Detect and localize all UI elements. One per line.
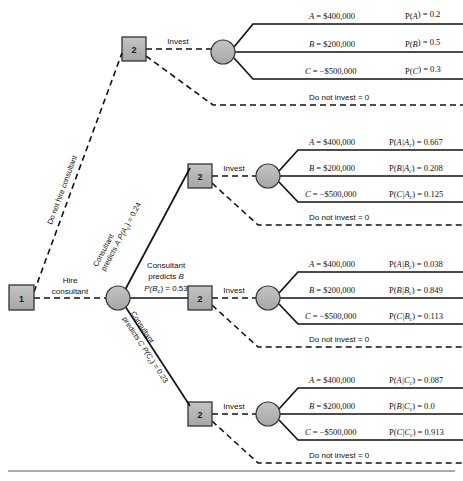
chance-node-predicts-a[interactable] xyxy=(256,164,280,188)
decision-node-root-label: 1 xyxy=(19,294,24,304)
outcome-payoff-c-2: C = −$500,000 xyxy=(305,189,356,199)
label-predicts-b-line3: P(Bc) = 0.53 xyxy=(144,284,188,294)
outcome-prob-b-2: P(B|Ac) = 0.208 xyxy=(389,163,443,174)
section-predicts-b: 2 Invest A = $400,000 P(A|Bc) = 0.038 B … xyxy=(188,259,463,347)
outcome-payoff-c-4: C = −$500,000 xyxy=(305,427,356,437)
outcome-line-a-4 xyxy=(279,388,463,409)
outcome-prob-b-4: P(B|Cc) = 0.0 xyxy=(389,401,435,412)
section-no-consultant: 2 Invest A = $400,000 P(A) = 0.2 B = $20… xyxy=(122,9,463,105)
outcome-payoff-b-3: B = $200,000 xyxy=(309,285,355,295)
outcome-prob-c-2: P(C|Ac) = 0.125 xyxy=(389,189,443,200)
invest-label-4: Invest xyxy=(223,402,245,411)
branch-labels: Do not hire consultant Hire consultant C… xyxy=(45,153,188,385)
outcome-prob-c-4: P(C|Cc) = 0.913 xyxy=(389,427,444,438)
do-not-invest-label-2: Do not invest = 0 xyxy=(309,213,370,222)
outcome-payoff-a-3: A = $400,000 xyxy=(308,259,355,269)
chance-node-predicts-b[interactable] xyxy=(256,286,280,310)
edge-do-not-invest-1 xyxy=(146,56,463,105)
outcome-payoff-b-4: B = $200,000 xyxy=(309,401,355,411)
chance-node-no-consultant[interactable] xyxy=(211,40,235,64)
do-not-invest-label-4: Do not invest = 0 xyxy=(309,451,370,460)
outcome-prob-a-3: P(A|Bc) = 0.038 xyxy=(389,259,443,270)
do-not-invest-label-3: Do not invest = 0 xyxy=(309,335,370,344)
root-edges: 1 xyxy=(9,53,190,406)
decision-node-predicts-b-label: 2 xyxy=(197,294,202,304)
section-predicts-a: 2 Invest A = $400,000 P(A|Ac) = 0.667 B … xyxy=(188,137,463,225)
outcome-prob-b-3: P(B|Bc) = 0.849 xyxy=(389,285,443,296)
invest-label-2: Invest xyxy=(223,164,245,173)
decision-node-predicts-c-label: 2 xyxy=(197,410,202,420)
outcome-payoff-a-4: A = $400,000 xyxy=(308,375,355,385)
label-hire-consultant-line1: Hire xyxy=(63,276,78,285)
decision-node-predicts-a-label: 2 xyxy=(197,172,202,182)
outcome-payoff-a-1: A = $400,000 xyxy=(308,11,355,21)
label-consultant-predicts-a: Consultant predicts A P(Ac) = 0.24 xyxy=(91,197,144,273)
chance-node-consultant[interactable] xyxy=(106,286,130,310)
invest-label-1: Invest xyxy=(167,37,189,46)
outcome-prob-c-3: P(C|Bc) = 0.113 xyxy=(389,311,443,322)
outcome-payoff-b-1: B = $200,000 xyxy=(309,39,355,49)
outcome-payoff-b-2: B = $200,000 xyxy=(309,163,355,173)
outcome-payoff-a-2: A = $400,000 xyxy=(308,137,355,147)
invest-label-3: Invest xyxy=(223,286,245,295)
decision-tree-diagram: 2 Invest A = $400,000 P(A) = 0.2 B = $20… xyxy=(0,0,463,481)
label-predicts-b-line2: predicts B xyxy=(148,272,184,281)
outcome-prob-a-1: P(A) = 0.2 xyxy=(405,9,440,21)
outcome-prob-b-1: P(B) = 0.5 xyxy=(405,37,440,49)
decision-node-no-consultant-label: 2 xyxy=(131,45,136,55)
outcome-prob-c-1: P(C) = 0.3 xyxy=(405,64,441,76)
outcome-payoff-c-3: C = −$500,000 xyxy=(305,311,356,321)
label-hire-consultant-line2: consultant xyxy=(52,287,89,296)
label-predicts-b-line1: Consultant xyxy=(147,261,186,270)
outcome-prob-a-2: P(A|Ac) = 0.667 xyxy=(389,137,443,148)
do-not-invest-label-1: Do not invest = 0 xyxy=(309,93,370,102)
section-predicts-c: 2 Invest A = $400,000 P(A|Cc) = 0.087 B … xyxy=(188,375,463,463)
outcome-prob-a-4: P(A|Cc) = 0.087 xyxy=(389,375,443,386)
chance-node-predicts-c[interactable] xyxy=(256,402,280,426)
outcome-payoff-c-1: C = −$500,000 xyxy=(305,66,356,76)
decision-tree-canvas: 2 Invest A = $400,000 P(A) = 0.2 B = $20… xyxy=(0,0,463,481)
